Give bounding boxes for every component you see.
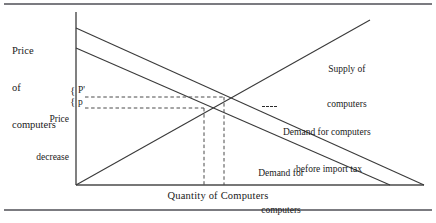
demand-after-curve-label: Demand for computers after import tax	[233, 143, 329, 223]
supply-demand-figure: Price of computers Quantity of Computers…	[0, 0, 436, 223]
y-axis-label-line-1: Price	[12, 45, 56, 57]
price-decrease-line-1: Price	[21, 113, 69, 126]
demand-before-line-1: Demand for computers	[283, 126, 371, 138]
x-axis-label: Quantity of Computers	[0, 190, 436, 202]
demand-after-line-1: Demand for	[233, 167, 329, 179]
brace-lower: {	[70, 95, 75, 107]
demand-after-line-2: computers	[233, 204, 329, 216]
price-decrease-label: Price decrease	[21, 87, 69, 190]
supply-label-line-1: Supply of	[327, 64, 367, 76]
price-decrease-line-2: decrease	[21, 151, 69, 164]
price-p-label: p	[78, 97, 83, 108]
demand-before-dash-marker	[262, 106, 277, 107]
price-p-prime-label: P'	[78, 85, 85, 96]
